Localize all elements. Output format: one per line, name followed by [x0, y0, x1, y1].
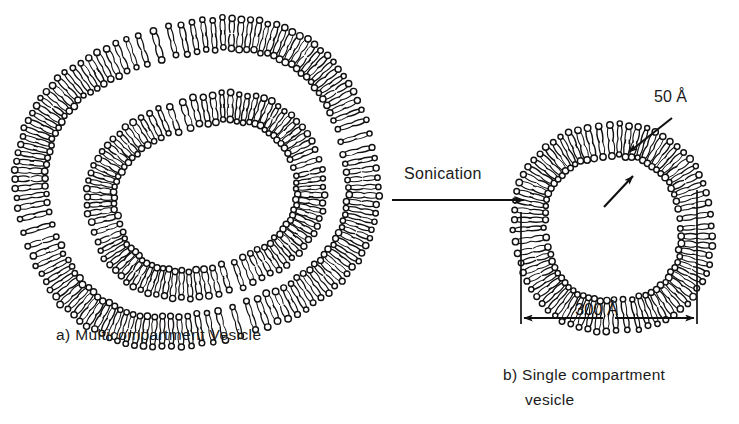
- multicompartment-vesicle: [12, 15, 383, 350]
- bilayer-thickness-label: 50 Å: [654, 88, 687, 106]
- caption-b-line-1: b) Single compartment: [503, 362, 665, 387]
- caption-b-line-2: vesicle: [503, 387, 665, 412]
- sonication-label: Sonication: [404, 165, 482, 183]
- vesicle-artwork: [0, 0, 739, 424]
- liposome-figure: Sonication 50 Å 300 Å a) Multicompartmen…: [0, 0, 739, 424]
- vesicle-diameter-label: 300 Å: [575, 300, 618, 319]
- caption-multicompartment-vesicle: a) Multicompartment Vesicle: [56, 326, 261, 344]
- outer-shell: [12, 15, 383, 350]
- caption-single-compartment-vesicle: b) Single compartment vesicle: [503, 362, 665, 412]
- inner-shell: [84, 89, 328, 301]
- inner-leaflet-pointer-arrow: [604, 176, 633, 207]
